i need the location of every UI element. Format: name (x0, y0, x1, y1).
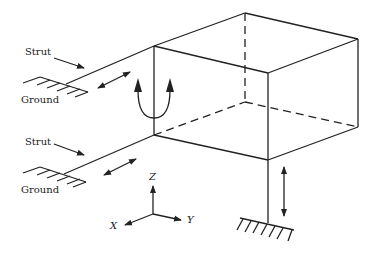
ground-label-upper: Ground (21, 94, 60, 105)
box-frame (154, 13, 358, 160)
diagram-canvas: Strut Ground Strut Ground Z X Y (0, 0, 379, 255)
axis-label-x: X (109, 220, 118, 231)
lower-strut-pointer-arrow-icon (54, 144, 84, 155)
vertical-support (237, 160, 294, 241)
lower-axial-double-arrow-icon (104, 159, 136, 175)
axis-label-z: Z (148, 171, 157, 182)
axis-label-y: Y (187, 214, 195, 225)
strut-label-lower: Strut (25, 136, 51, 147)
upper-axial-double-arrow-icon (98, 72, 130, 88)
coordinate-axes (125, 186, 181, 225)
upper-strut-pointer-arrow-icon (54, 58, 84, 68)
strut-label-upper: Strut (25, 46, 51, 57)
ground-label-lower: Ground (21, 184, 60, 195)
